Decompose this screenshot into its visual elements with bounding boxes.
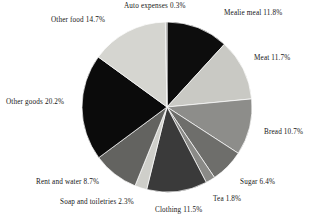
slice-label-mealie-meal: Mealie meal 11.8% bbox=[224, 9, 282, 18]
slice-label-soap-and-toiletries: Soap and toiletries 2.3% bbox=[60, 198, 134, 207]
slice-label-auto-expenses: Auto expenses 0.3% bbox=[124, 2, 186, 11]
slice-label-clothing: Clothing 11.5% bbox=[155, 206, 202, 215]
pie-chart: Auto expenses 0.3% Mealie meal 11.8% Mea… bbox=[0, 0, 323, 221]
slice-label-meat: Meat 11.7% bbox=[254, 54, 290, 63]
slice-label-rent-and-water: Rent and water 8.7% bbox=[36, 178, 99, 187]
pie-slice-group bbox=[82, 22, 252, 192]
pie-chart-canvas bbox=[0, 0, 323, 221]
slice-label-other-food: Other food 14.7% bbox=[51, 16, 105, 25]
slice-label-sugar: Sugar 6.4% bbox=[240, 178, 275, 187]
slice-label-other-goods: Other goods 20.2% bbox=[6, 98, 64, 107]
slice-label-tea: Tea 1.8% bbox=[213, 195, 241, 204]
slice-label-bread: Bread 10.7% bbox=[264, 128, 303, 137]
